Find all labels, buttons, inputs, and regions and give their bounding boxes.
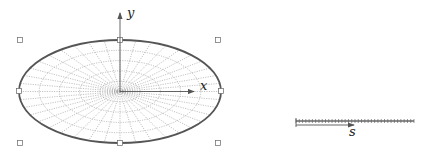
mesh-spoke	[120, 43, 151, 92]
mesh-spoke	[120, 92, 191, 128]
mesh-spoke	[104, 41, 120, 92]
selection-handle-middle-right[interactable]	[219, 89, 224, 94]
segment-label: s	[349, 124, 356, 139]
mesh-spoke	[120, 92, 151, 141]
selection-handle-top-left[interactable]	[18, 38, 23, 43]
selection-handle-top-right[interactable]	[216, 38, 221, 43]
selection-handle-middle-left[interactable]	[17, 89, 22, 94]
selection-handle-bottom-left[interactable]	[18, 141, 23, 146]
mesh-spoke	[61, 92, 120, 134]
mesh-spoke	[89, 43, 120, 92]
mesh-spoke	[24, 76, 120, 92]
selection-handle-bottom-right[interactable]	[216, 141, 221, 146]
mesh-spoke	[120, 68, 210, 91]
mesh-spoke	[120, 92, 179, 134]
mesh-spoke	[120, 55, 191, 91]
mesh-spoke	[89, 92, 120, 141]
mesh-spoke	[120, 92, 210, 115]
diagram-canvas: x y s	[0, 0, 426, 152]
mesh-spoke	[120, 92, 166, 138]
mesh-spoke	[24, 92, 120, 108]
mesh-spoke	[74, 92, 120, 138]
mesh-spoke	[74, 46, 120, 92]
mesh-spoke	[120, 61, 202, 91]
mesh-spoke	[104, 92, 120, 143]
mesh-spoke	[61, 50, 120, 92]
selection-handle-bottom-center[interactable]	[118, 141, 123, 146]
mesh-spoke	[120, 92, 202, 122]
mesh-spoke	[49, 55, 120, 91]
mesh-spoke	[120, 92, 216, 108]
mesh-spoke	[120, 46, 166, 92]
mesh-spoke	[49, 92, 120, 128]
coordinate-axes: x y	[120, 5, 208, 93]
mesh-spoke	[38, 61, 120, 91]
x-axis-label: x	[200, 78, 208, 93]
mesh-spoke	[30, 68, 120, 91]
mesh-spoke	[38, 92, 120, 122]
mesh-spoke	[30, 92, 120, 115]
y-axis-label: y	[126, 5, 135, 20]
mesh-spoke	[120, 50, 179, 92]
